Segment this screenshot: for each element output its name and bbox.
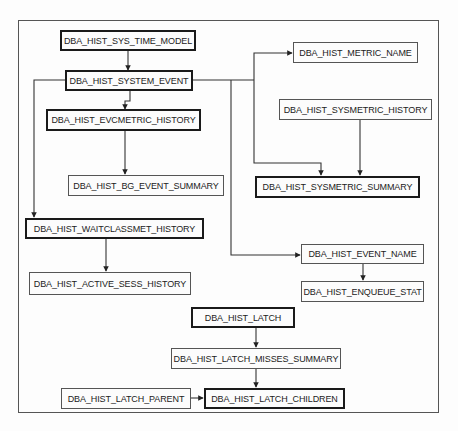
edge-system-event-to-evcmetric	[125, 90, 130, 109]
node-waitclassmet-history: DBA_HIST_WAITCLASSMET_HISTORY	[25, 218, 204, 239]
node-latch-children: DBA_HIST_LATCH_CHILDREN	[204, 388, 345, 409]
node-latch: DBA_HIST_LATCH	[191, 307, 295, 328]
node-event-name: DBA_HIST_EVENT_NAME	[301, 244, 424, 264]
node-latch-misses-summary: DBA_HIST_LATCH_MISSES_SUMMARY	[171, 348, 341, 369]
edge-system-event-to-metric-name	[254, 53, 292, 80]
edge-system-event-to-waitclassmet	[34, 80, 65, 217]
node-enqueue-stat: DBA_HIST_ENQUEUE_STAT	[301, 281, 424, 302]
node-active-sess-history: DBA_HIST_ACTIVE_SESS_HISTORY	[29, 272, 191, 295]
edge-system-event-to-sysmetric-summary	[254, 80, 321, 175]
node-sys-time-model: DBA_HIST_SYS_TIME_MODEL	[60, 30, 196, 51]
node-sysmetric-summary: DBA_HIST_SYSMETRIC_SUMMARY	[255, 176, 420, 198]
node-sysmetric-history: DBA_HIST_SYSMETRIC_HISTORY	[279, 99, 432, 120]
node-evcmetric-history: DBA_HIST_EVCMETRIC_HISTORY	[46, 109, 201, 131]
node-system-event: DBA_HIST_SYSTEM_EVENT	[65, 70, 193, 91]
node-bg-event-summary: DBA_HIST_BG_EVENT_SUMMARY	[68, 175, 224, 196]
node-latch-parent: DBA_HIST_LATCH_PARENT	[61, 388, 191, 409]
node-metric-name: DBA_HIST_METRIC_NAME	[293, 42, 418, 63]
